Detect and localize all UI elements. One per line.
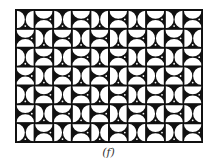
tile-vertical [109,29,128,48]
tile-vertical [35,29,54,48]
tile-horizontal [146,48,165,67]
tile-horizontal [146,85,165,104]
tile-vertical [109,104,128,123]
tile-vertical [128,85,147,104]
tile-vertical [165,48,184,67]
tile-horizontal [183,85,202,104]
tile-horizontal [128,104,147,123]
tile-horizontal [90,67,109,86]
tile-vertical [16,48,35,67]
tile-horizontal [53,29,72,48]
tile-horizontal [16,67,35,86]
tile-horizontal [165,104,184,123]
tile-horizontal [146,10,165,29]
tile-horizontal [128,29,147,48]
tile-vertical [165,10,184,29]
tile-vertical [90,10,109,29]
tile-horizontal [35,48,54,67]
tile-vertical [53,85,72,104]
tile-vertical [146,29,165,48]
tile-vertical [183,29,202,48]
tile-horizontal [53,67,72,86]
tile-vertical [16,10,35,29]
tile-horizontal [72,85,91,104]
tile-vertical [72,104,91,123]
tiling-pattern-figure [15,9,203,143]
tile-vertical [183,67,202,86]
tile-vertical [53,48,72,67]
tile-vertical [128,123,147,142]
tile-vertical [53,123,72,142]
tile-vertical [35,104,54,123]
tile-vertical [35,67,54,86]
tile-horizontal [35,123,54,142]
tile-vertical [165,85,184,104]
tile-vertical [146,104,165,123]
tile-vertical [109,67,128,86]
figure-caption: (f) [0,146,217,159]
tile-vertical [16,85,35,104]
tile-vertical [16,123,35,142]
tile-vertical [90,123,109,142]
tile-vertical [146,67,165,86]
tile-horizontal [109,123,128,142]
tile-vertical [72,67,91,86]
tile-horizontal [109,85,128,104]
tile-horizontal [16,29,35,48]
tile-horizontal [35,10,54,29]
tile-vertical [183,104,202,123]
tile-horizontal [72,123,91,142]
tile-horizontal [183,48,202,67]
tile-horizontal [146,123,165,142]
tile-horizontal [165,29,184,48]
tile-horizontal [72,10,91,29]
tile-horizontal [35,85,54,104]
tile-horizontal [16,104,35,123]
tile-horizontal [128,67,147,86]
tile-horizontal [183,10,202,29]
tile-horizontal [109,10,128,29]
semicircle-tiling-graphic [16,10,202,142]
tile-horizontal [90,104,109,123]
tile-vertical [128,48,147,67]
tile-vertical [90,48,109,67]
tile-horizontal [165,67,184,86]
tile-vertical [90,85,109,104]
tile-horizontal [72,48,91,67]
tile-vertical [53,10,72,29]
tile-horizontal [109,48,128,67]
tile-horizontal [53,104,72,123]
tile-vertical [165,123,184,142]
tile-vertical [72,29,91,48]
tile-horizontal [90,29,109,48]
tile-horizontal [183,123,202,142]
tile-vertical [128,10,147,29]
